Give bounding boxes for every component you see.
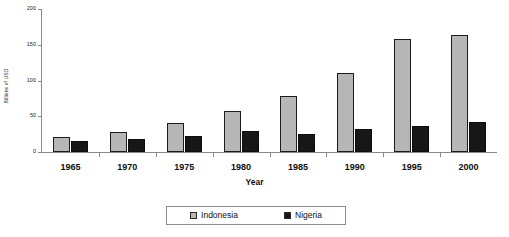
bar-nigeria-1975 — [185, 136, 202, 152]
bar-group — [167, 9, 202, 152]
x-tick-mark — [213, 152, 214, 157]
bar-group — [53, 9, 88, 152]
x-tick-label: 1975 — [156, 160, 213, 174]
bar-indonesia-1995 — [394, 39, 411, 152]
bar-nigeria-1970 — [128, 139, 145, 152]
y-tick-label: 50 — [16, 113, 36, 119]
bar-indonesia-1970 — [110, 132, 127, 152]
plot-area: Billions of USD 050100150200 19651970197… — [0, 0, 509, 160]
x-tick-label: 1990 — [326, 160, 383, 174]
x-axis-title: Year — [0, 177, 509, 187]
legend-label: Indonesia — [201, 211, 238, 220]
x-axis-labels: 19651970197519801985199019952000 — [42, 160, 497, 176]
bar-nigeria-2000 — [469, 122, 486, 152]
bar-group — [110, 9, 145, 152]
bar-indonesia-1985 — [280, 96, 297, 152]
y-tick-label: 150 — [16, 42, 36, 48]
bar-indonesia-1990 — [337, 73, 354, 152]
bar-group — [224, 9, 259, 152]
x-tick-mark — [326, 152, 327, 157]
bar-indonesia-1980 — [224, 111, 241, 152]
y-axis-ticks: 050100150200 — [14, 0, 36, 160]
bar-group — [280, 9, 315, 152]
x-tick-label: 1985 — [270, 160, 327, 174]
bar-nigeria-1980 — [242, 131, 259, 152]
bar-nigeria-1990 — [355, 129, 372, 152]
bars-layer — [42, 9, 497, 152]
legend-entry-indonesia: Indonesia — [190, 211, 238, 220]
legend-swatch-indonesia — [190, 212, 197, 219]
x-tick-mark — [156, 152, 157, 157]
bar-chart: Billions of USD 050100150200 19651970197… — [0, 0, 509, 237]
x-tick-label: 1965 — [42, 160, 99, 174]
x-tick-mark — [99, 152, 100, 157]
bar-group — [394, 9, 429, 152]
legend-label: Nigeria — [295, 211, 322, 220]
x-tick-label: 2000 — [440, 160, 497, 174]
x-tick-mark — [383, 152, 384, 157]
bar-group — [451, 9, 486, 152]
legend-entry-nigeria: Nigeria — [284, 211, 322, 220]
bar-group — [337, 9, 372, 152]
x-tick-label: 1980 — [213, 160, 270, 174]
chart-legend: IndonesiaNigeria — [166, 206, 346, 225]
bar-nigeria-1965 — [71, 141, 88, 152]
x-tick-mark — [440, 152, 441, 157]
y-axis-title: Billions of USD — [3, 0, 9, 46]
x-tick-mark — [270, 152, 271, 157]
bar-nigeria-1995 — [412, 126, 429, 152]
bar-indonesia-1975 — [167, 123, 184, 152]
bar-indonesia-2000 — [451, 35, 468, 152]
legend-swatch-nigeria — [284, 212, 291, 219]
x-tick-label: 1970 — [99, 160, 156, 174]
y-tick-mark — [38, 152, 42, 153]
y-tick-label: 0 — [16, 149, 36, 155]
y-tick-label: 200 — [16, 6, 36, 12]
y-tick-label: 100 — [16, 78, 36, 84]
bar-nigeria-1985 — [298, 134, 315, 152]
bar-indonesia-1965 — [53, 137, 70, 152]
x-tick-label: 1995 — [383, 160, 440, 174]
y-axis-title-text: Billions of USD — [3, 46, 9, 126]
